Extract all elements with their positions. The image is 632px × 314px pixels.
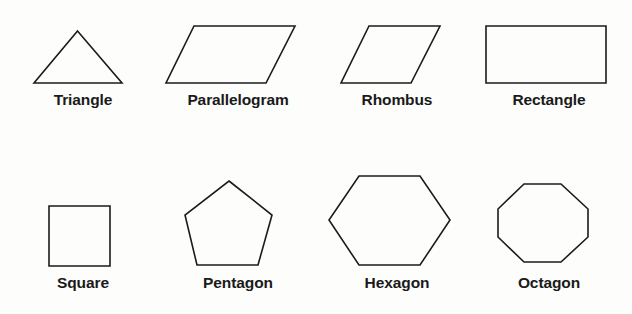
shape-label-rectangle: Rectangle [466, 91, 632, 108]
shape-label-octagon: Octagon [466, 274, 632, 291]
rhombus-outline [341, 26, 440, 83]
shape-hexagon [328, 175, 452, 267]
shape-rhombus [340, 25, 441, 84]
shape-parallelogram [165, 25, 296, 84]
shape-octagon [497, 183, 591, 264]
shape-label-pentagon: Pentagon [155, 274, 321, 291]
square-outline [49, 206, 110, 266]
shape-label-parallelogram: Parallelogram [155, 91, 321, 108]
shape-label-rhombus: Rhombus [314, 91, 480, 108]
shape-triangle [33, 30, 123, 84]
triangle-outline [34, 31, 122, 83]
octagon-outline [498, 184, 588, 262]
pentagon-outline [185, 181, 272, 265]
shape-label-square: Square [0, 274, 166, 291]
parallelogram-outline [166, 26, 295, 83]
shape-rectangle [485, 25, 607, 84]
hexagon-outline [329, 176, 450, 265]
rectangle-outline [486, 26, 606, 83]
shape-label-hexagon: Hexagon [314, 274, 480, 291]
shape-label-triangle: Triangle [0, 91, 166, 108]
shape-pentagon [184, 180, 274, 267]
shapes-diagram: Triangle Parallelogram Rhombus Rectangle… [0, 0, 632, 314]
shape-square [48, 205, 112, 268]
